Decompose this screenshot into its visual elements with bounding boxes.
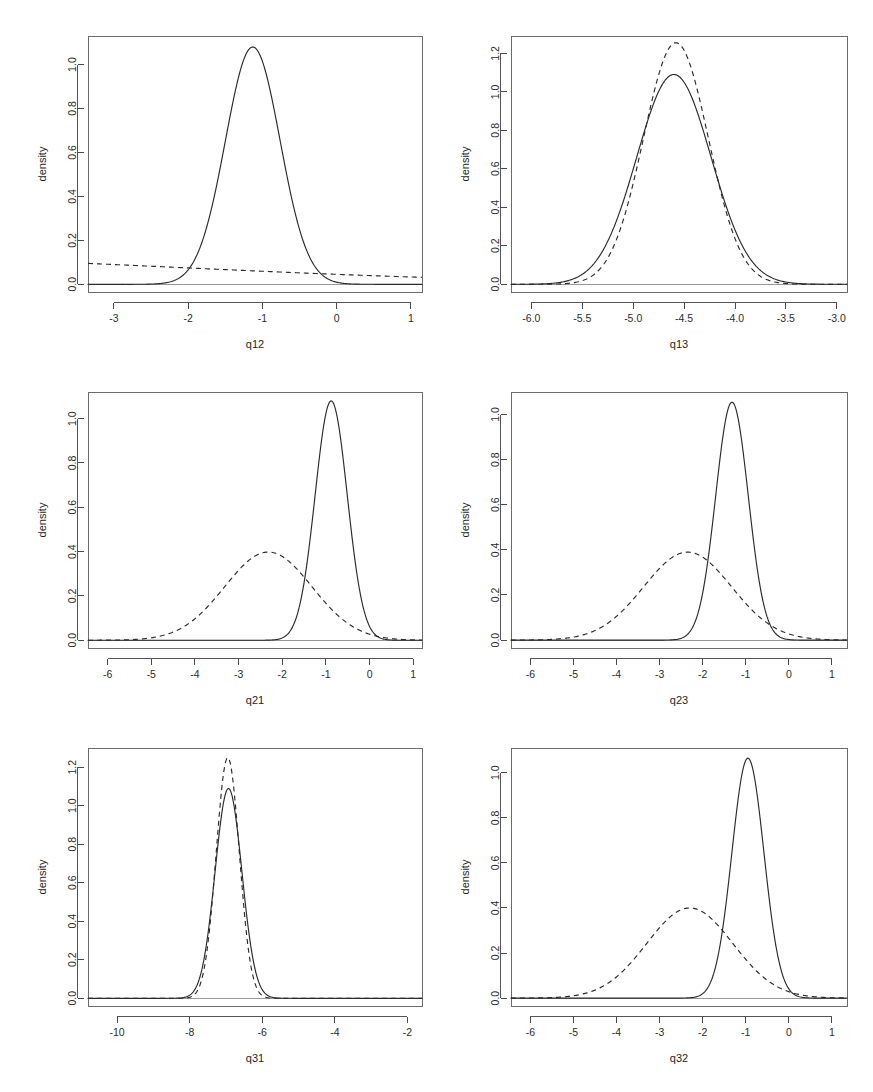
x-axis-title: q31 [246, 1052, 264, 1064]
x-axis-title: q23 [670, 694, 688, 706]
x-axis-title: q12 [246, 338, 264, 350]
x-tick-label: -4 [190, 668, 199, 680]
y-tick-label: 0.4 [489, 901, 501, 916]
x-tick-label: -6 [103, 668, 112, 680]
plot-frame [89, 37, 423, 293]
density-curve-posterior [88, 401, 422, 640]
density-curve-prior [511, 908, 847, 998]
y-tick-label: 0.6 [66, 500, 78, 515]
density-curve-prior [511, 552, 847, 640]
x-tick-label: -5 [569, 1026, 578, 1038]
x-tick-label: -5.0 [624, 312, 642, 324]
y-tick-label: 0.2 [489, 238, 501, 253]
x-axis-title: q13 [670, 338, 688, 350]
y-tick-label: 1.0 [66, 57, 78, 72]
y-tick-label: 0.2 [66, 233, 78, 248]
density-curve-posterior [511, 402, 847, 640]
y-tick-label: 0.4 [489, 200, 501, 215]
x-tick-label: -5 [147, 668, 156, 680]
y-tick-label: 0.6 [489, 855, 501, 870]
y-tick-label: 0.8 [489, 452, 501, 467]
y-axis-title: density [36, 502, 48, 537]
density-panel-q31: 0.00.20.40.60.81.01.2density-10-8-6-4-2q… [14, 726, 434, 1078]
x-tick-label: -1 [741, 668, 750, 680]
plot-frame [512, 393, 848, 649]
y-tick-label: 0.4 [66, 189, 78, 204]
density-curve-prior [88, 758, 422, 999]
density-curve-posterior [511, 75, 847, 285]
x-tick-label: -3 [655, 668, 664, 680]
density-curve-posterior [88, 788, 422, 998]
x-tick-label: -2 [184, 312, 193, 324]
y-tick-label: 0.4 [66, 914, 78, 929]
x-tick-label: -2 [698, 668, 707, 680]
x-tick-label: 1 [829, 1026, 835, 1038]
x-tick-label: -2 [403, 1026, 412, 1038]
x-tick-label: -2 [278, 668, 287, 680]
x-tick-label: -4.5 [675, 312, 693, 324]
x-axis-title: q32 [670, 1052, 688, 1064]
y-tick-label: 0.0 [489, 633, 501, 648]
y-tick-label: 1.0 [489, 765, 501, 780]
x-tick-label: 0 [786, 668, 792, 680]
x-tick-label: -1 [258, 312, 267, 324]
y-tick-label: 0.0 [66, 277, 78, 292]
density-curve-posterior [511, 758, 847, 998]
x-tick-label: -6 [526, 1026, 535, 1038]
x-tick-label: -3.5 [777, 312, 795, 324]
x-tick-label: -5.5 [573, 312, 591, 324]
density-plot-grid: 0.00.20.40.60.81.0density-3-2-101q120.00… [0, 0, 873, 1092]
density-panel-q32: 0.00.20.40.60.81.0density-6-5-4-3-2-101q… [437, 726, 859, 1078]
y-tick-label: 0.8 [489, 810, 501, 825]
density-curve-posterior [88, 47, 422, 284]
y-tick-label: 1.0 [489, 407, 501, 422]
y-tick-label: 1.2 [489, 46, 501, 61]
y-tick-label: 0.2 [66, 588, 78, 603]
density-curve-prior [88, 263, 422, 277]
y-axis-title: density [36, 146, 48, 181]
x-tick-label: -4 [612, 1026, 621, 1038]
x-tick-label: -4 [612, 668, 621, 680]
density-curve-prior [511, 43, 847, 285]
y-axis-title: density [459, 502, 471, 537]
x-tick-label: -3.0 [828, 312, 846, 324]
y-tick-label: 0.4 [489, 542, 501, 557]
y-axis-title: density [459, 146, 471, 181]
y-tick-label: 1.0 [66, 411, 78, 426]
plot-frame [512, 749, 848, 1007]
y-axis-title: density [459, 859, 471, 894]
x-tick-label: -6 [526, 668, 535, 680]
density-panel-q12: 0.00.20.40.60.81.0density-3-2-101q12 [14, 14, 434, 364]
x-tick-label: -1 [321, 668, 330, 680]
x-tick-label: 0 [786, 1026, 792, 1038]
y-tick-label: 1.0 [489, 84, 501, 99]
x-tick-label: -8 [185, 1026, 194, 1038]
y-tick-label: 0.8 [66, 837, 78, 852]
x-tick-label: -3 [234, 668, 243, 680]
x-tick-label: -2 [698, 1026, 707, 1038]
x-axis-title: q21 [246, 694, 264, 706]
y-tick-label: 0.0 [489, 277, 501, 292]
x-tick-label: 0 [367, 668, 373, 680]
y-tick-label: 0.0 [489, 991, 501, 1006]
x-tick-label: -3 [109, 312, 118, 324]
density-panel-q23: 0.00.20.40.60.81.0density-6-5-4-3-2-101q… [437, 370, 859, 720]
density-panel-q13: 0.00.20.40.60.81.01.2density-6.0-5.5-5.0… [437, 14, 859, 364]
y-tick-label: 0.8 [66, 101, 78, 116]
plot-frame [512, 37, 848, 293]
x-tick-label: 1 [829, 668, 835, 680]
y-tick-label: 0.0 [66, 991, 78, 1006]
plot-frame [89, 749, 423, 1007]
x-tick-label: -6.0 [522, 312, 540, 324]
x-tick-label: 1 [408, 312, 414, 324]
x-tick-label: -1 [741, 1026, 750, 1038]
y-tick-label: 0.8 [489, 123, 501, 138]
x-tick-label: 1 [410, 668, 416, 680]
y-tick-label: 0.6 [66, 145, 78, 160]
x-tick-label: -10 [109, 1026, 124, 1038]
y-tick-label: 0.0 [66, 633, 78, 648]
y-tick-label: 1.0 [66, 798, 78, 813]
y-tick-label: 0.4 [66, 544, 78, 559]
y-tick-label: 0.2 [489, 588, 501, 603]
y-tick-label: 0.6 [489, 161, 501, 176]
